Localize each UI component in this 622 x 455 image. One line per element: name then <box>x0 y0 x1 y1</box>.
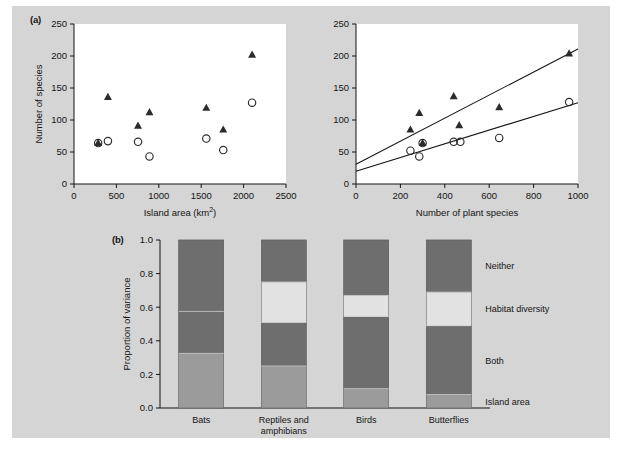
y-tick-label: 0.2 <box>140 369 153 380</box>
x-tick-label: 500 <box>108 190 124 201</box>
bar-segment <box>261 366 306 408</box>
y-tick-label: 0.0 <box>140 402 153 413</box>
y-tick-label: 150 <box>51 82 67 93</box>
plot-area-background <box>356 24 578 184</box>
y-tick-label: 100 <box>51 114 67 125</box>
category-label: Birds <box>356 415 377 425</box>
bar-segment <box>179 240 224 311</box>
x-tick-label: 200 <box>392 190 408 201</box>
x-tick-label: 2000 <box>233 190 254 201</box>
y-tick-label: 0.4 <box>140 335 153 346</box>
panel-a-left-scatter: 05010015020025005001000150020002500Islan… <box>12 10 312 225</box>
category-label: Reptiles and <box>259 415 309 425</box>
y-tick-label: 200 <box>51 50 67 61</box>
bar-segment <box>261 240 306 282</box>
y-axis-title: Proportion of variance <box>121 278 132 371</box>
x-tick-label: 2500 <box>275 190 296 201</box>
y-tick-label: 250 <box>51 18 67 29</box>
category-label: Bats <box>192 415 211 425</box>
legend-label-habitat-diversity: Habitat diversity <box>485 304 550 314</box>
x-tick-label: 1000 <box>567 190 588 201</box>
x-tick-label: 600 <box>481 190 497 201</box>
x-tick-label: 0 <box>353 190 358 201</box>
panel-a-right-scatter: 05010015020025002004006008001000Number o… <box>304 10 610 225</box>
category-label: Butterflies <box>429 415 470 425</box>
y-tick-label: 1.0 <box>140 234 153 245</box>
legend-label-both: Both <box>485 356 504 366</box>
y-tick-label: 200 <box>333 50 349 61</box>
bar-segment <box>344 316 389 388</box>
bar-segment <box>344 389 389 408</box>
y-axis-title: Number of species <box>33 64 44 143</box>
panel-b-stacked-bar: 0.00.20.40.60.81.0BatsReptiles andamphib… <box>108 228 588 438</box>
y-tick-label: 50 <box>56 146 67 157</box>
bar-segment <box>179 311 224 353</box>
bar-segment <box>261 282 306 322</box>
y-tick-label: 0 <box>62 178 67 189</box>
y-tick-label: 50 <box>338 146 349 157</box>
y-tick-label: 150 <box>333 82 349 93</box>
x-tick-label: 400 <box>437 190 453 201</box>
y-tick-label: 250 <box>333 18 349 29</box>
y-tick-label: 0 <box>344 178 349 189</box>
bar-segment <box>426 326 471 395</box>
legend-label-neither: Neither <box>485 261 514 271</box>
bar-segment <box>344 240 389 295</box>
legend-label-island-area: Island area <box>485 397 530 407</box>
bar-segment <box>426 395 471 408</box>
y-tick-label: 100 <box>333 114 349 125</box>
bar-segment <box>344 295 389 316</box>
x-axis-title: Island area (km2) <box>144 206 217 218</box>
bar-segment <box>426 292 471 326</box>
y-tick-label: 0.8 <box>140 268 153 279</box>
x-tick-label: 0 <box>71 190 76 201</box>
figure-container: (a) 05010015020025005001000150020002500I… <box>12 6 610 438</box>
x-axis-title: Number of plant species <box>416 207 519 218</box>
x-tick-label: 800 <box>526 190 542 201</box>
bar-segment <box>179 353 224 408</box>
bar-segment <box>261 322 306 366</box>
category-label: amphibians <box>261 426 308 436</box>
x-tick-label: 1000 <box>148 190 169 201</box>
bar-segment <box>426 240 471 292</box>
x-tick-label: 1500 <box>191 190 212 201</box>
plot-area-background <box>74 24 286 184</box>
y-tick-label: 0.6 <box>140 302 153 313</box>
